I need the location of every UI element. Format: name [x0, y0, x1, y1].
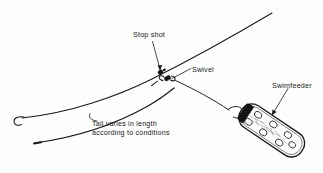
label-swimfeeder: Swimfeeder: [272, 81, 312, 90]
main-line: [22, 13, 272, 118]
swimfeeder-arrow: [272, 110, 277, 116]
fishing-rig-diagram: Stop shot Swivel Swimfeeder Tail varies …: [0, 0, 323, 173]
tail-line-tip: [34, 142, 41, 143]
swivel-leader: [172, 69, 191, 79]
swimfeeder-leader: [273, 89, 288, 114]
label-stop-shot: Stop shot: [133, 30, 165, 39]
stop-shot: [157, 68, 166, 75]
label-swivel: Swivel: [192, 65, 214, 74]
label-tail-line-2: according to conditions: [92, 128, 170, 137]
link-line: [176, 81, 230, 111]
stop-shot-leader: [153, 42, 161, 70]
swimfeeder-body: [234, 99, 309, 161]
label-tail-note: Tail varies in length according to condi…: [92, 119, 184, 137]
label-tail-line-1: Tail varies in length: [92, 119, 157, 128]
swivel: [152, 75, 176, 86]
